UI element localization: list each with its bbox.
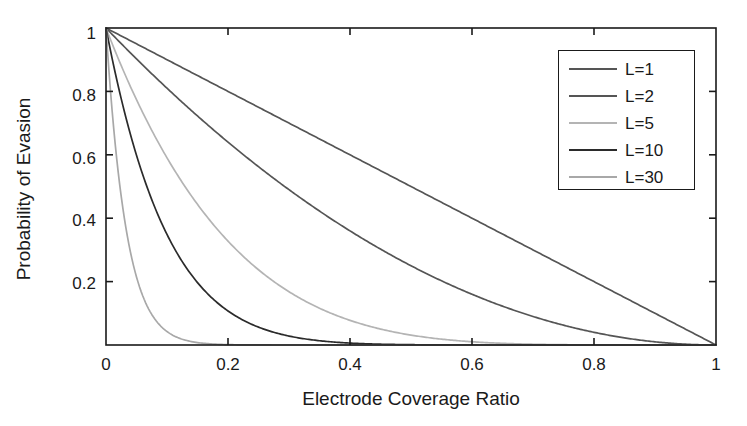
y-tick-label-0.4: 0.4 xyxy=(42,212,96,229)
legend-label-4: L=30 xyxy=(625,169,663,186)
legend-item-1: L=2 xyxy=(559,82,696,110)
x-axis-label: Electrode Coverage Ratio xyxy=(106,388,716,410)
x-tick-label-0: 0 xyxy=(101,356,110,373)
y-axis-label: Probability of Evasion xyxy=(13,79,35,299)
legend-swatch-icon-2 xyxy=(569,122,617,124)
x-tick-label-4: 0.8 xyxy=(582,356,606,373)
y-tick-label-0.2: 0.2 xyxy=(42,275,96,292)
legend-swatch-icon-1 xyxy=(569,95,617,97)
legend-label-0: L=1 xyxy=(625,61,654,78)
legend-swatch-icon-0 xyxy=(569,68,617,70)
legend-item-2: L=5 xyxy=(559,109,696,137)
y-tick-label-0.6: 0.6 xyxy=(42,150,96,167)
x-tick-label-1: 0.2 xyxy=(216,356,240,373)
legend-label-2: L=5 xyxy=(625,115,654,132)
legend-label-1: L=2 xyxy=(625,88,654,105)
x-tick-label-2: 0.4 xyxy=(338,356,362,373)
y-tick-label-1: 1 xyxy=(42,25,96,42)
chart-legend: L=1 L=2 L=5 L=10 L=30 xyxy=(558,50,695,190)
legend-swatch-icon-4 xyxy=(569,176,617,178)
legend-item-4: L=30 xyxy=(559,163,696,191)
x-tick-label-3: 0.6 xyxy=(460,356,484,373)
legend-label-3: L=10 xyxy=(625,142,663,159)
y-tick-label-0.8: 0.8 xyxy=(42,87,96,104)
chart-figure: 0 0.2 0.4 0.6 0.8 1 0.2 0.4 0.6 0.8 1 El… xyxy=(0,0,747,426)
legend-item-0: L=1 xyxy=(559,55,696,83)
legend-item-3: L=10 xyxy=(559,136,696,164)
x-tick-label-5: 1 xyxy=(711,356,720,373)
legend-swatch-icon-3 xyxy=(569,149,617,151)
